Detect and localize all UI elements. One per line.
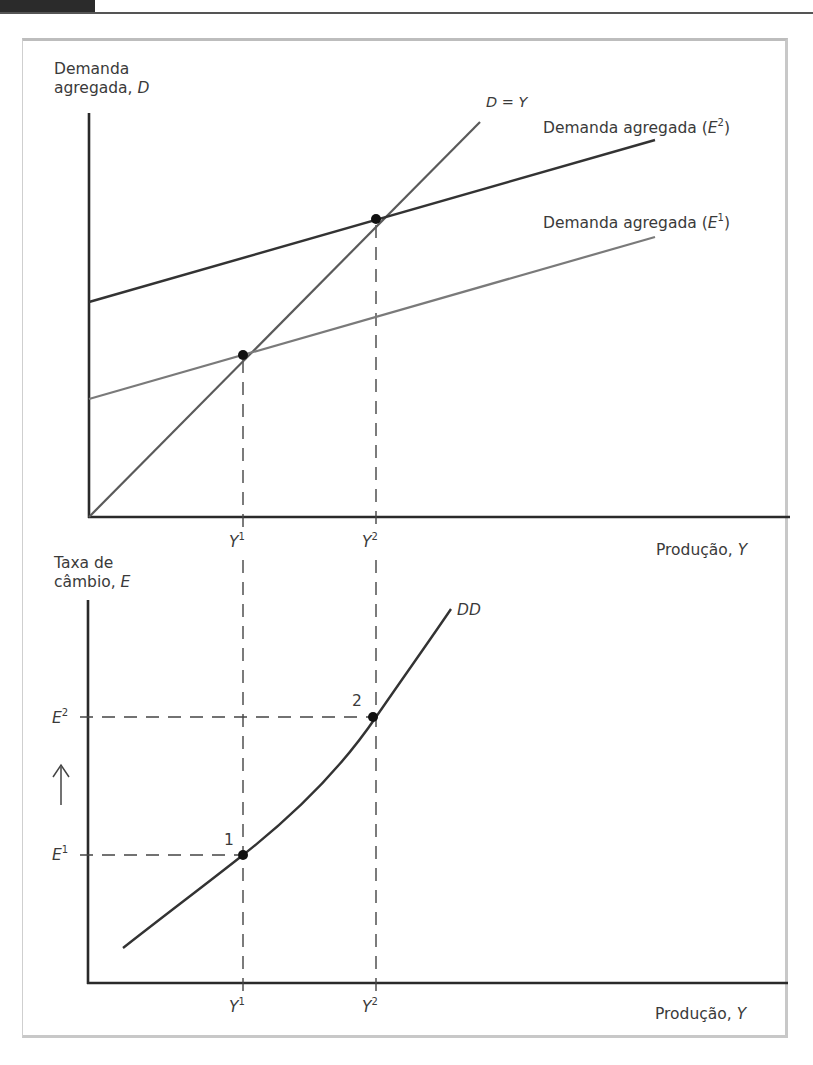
up-arrow-icon	[53, 765, 69, 805]
dd-curve	[123, 609, 451, 948]
label-demand-e2-sym: E	[708, 119, 718, 137]
point-1-label: 1	[224, 831, 234, 850]
top-y-axis-label: Demanda agregada, D	[54, 60, 149, 98]
bottom-tick-y2: Y2	[362, 998, 378, 1017]
tick-e1-sym: E	[52, 846, 62, 864]
label-demand-e1-paren: )	[724, 214, 730, 232]
label-demand-e2-paren: )	[724, 119, 730, 137]
top-x-axis-label-text: Produção,	[656, 541, 738, 559]
top-y-axis-symbol: D	[137, 79, 149, 97]
dd-curve-label: DD	[457, 601, 481, 620]
label-demand-e1-sym: E	[708, 214, 718, 232]
equilibrium-point-y1	[238, 350, 248, 360]
bottom-tick-y1-sup: 1	[238, 996, 244, 1007]
bottom-tick-y1: Y1	[229, 998, 245, 1017]
tick-e2-sup: 2	[62, 707, 68, 718]
tick-e2: E2	[52, 709, 68, 728]
bottom-y-axis-symbol: E	[121, 573, 131, 591]
label-demand-e2: Demanda agregada (E2)	[543, 119, 730, 138]
point-1	[238, 850, 248, 860]
line-d-equals-y	[89, 122, 480, 517]
bottom-y-axis-label-line1: Taxa de	[54, 554, 113, 572]
top-x-axis-symbol: Y	[738, 541, 747, 559]
label-demand-e2-text: Demanda agregada (	[543, 119, 708, 137]
top-tick-y2-sup: 2	[371, 531, 377, 542]
top-tick-y1-sup: 1	[238, 531, 244, 542]
line-demand-e1	[89, 237, 655, 399]
bottom-x-axis-label-text: Produção,	[655, 1005, 737, 1023]
top-tick-y2: Y2	[362, 533, 378, 552]
top-tick-y1: Y1	[229, 533, 245, 552]
bottom-x-axis-label: Produção, Y	[655, 1005, 746, 1024]
bottom-tick-y2-sup: 2	[371, 996, 377, 1007]
bottom-y-axis-label: Taxa de câmbio, E	[54, 554, 130, 592]
label-d-equals-y: D = Y	[486, 93, 527, 112]
bottom-axes	[87, 600, 788, 984]
point-2	[368, 712, 378, 722]
point-2-label: 2	[352, 692, 362, 711]
top-dashed-guides	[243, 225, 376, 530]
label-demand-e1: Demanda agregada (E1)	[543, 214, 730, 233]
top-axes	[88, 113, 790, 518]
figure-graphics	[0, 0, 813, 1065]
bottom-y-axis-label-line2: câmbio,	[54, 573, 121, 591]
equilibrium-point-y2	[371, 214, 381, 224]
top-x-axis-label: Produção, Y	[656, 541, 747, 560]
bottom-x-axis-symbol: Y	[737, 1005, 746, 1023]
label-demand-e1-text: Demanda agregada (	[543, 214, 708, 232]
top-y-axis-label-line2: agregada,	[54, 79, 137, 97]
bottom-dashed-guides	[80, 560, 376, 995]
top-y-axis-label-line1: Demanda	[54, 60, 129, 78]
tick-e1-sup: 1	[62, 844, 68, 855]
tick-e1: E1	[52, 846, 68, 865]
tick-e2-sym: E	[52, 709, 62, 727]
